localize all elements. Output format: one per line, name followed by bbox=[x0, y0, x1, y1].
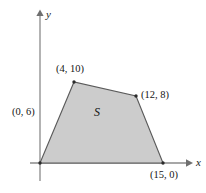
figure-canvas: x y (0, 6) (4, 10) (12, 8) (15, 0) S bbox=[0, 0, 206, 193]
region-label-s: S bbox=[94, 106, 100, 118]
y-axis-arrowhead bbox=[36, 10, 43, 17]
y-axis-label: y bbox=[46, 9, 51, 20]
x-axis-label: x bbox=[196, 157, 201, 168]
vertex-marker-4-10 bbox=[72, 80, 75, 83]
vertex-marker-15-0 bbox=[161, 161, 164, 164]
x-axis-arrowhead bbox=[186, 159, 193, 166]
y-axis bbox=[36, 10, 43, 182]
vertex-marker-12-8 bbox=[134, 94, 137, 97]
vertex-label-15-0: (15, 0) bbox=[150, 170, 178, 181]
vertex-label-12-8: (12, 8) bbox=[141, 90, 169, 101]
vertex-marker-0-6 bbox=[38, 161, 41, 164]
vertex-label-0-6: (0, 6) bbox=[12, 107, 35, 118]
coordinate-plane-graphic bbox=[0, 0, 206, 193]
vertex-label-4-10: (4, 10) bbox=[56, 64, 84, 75]
